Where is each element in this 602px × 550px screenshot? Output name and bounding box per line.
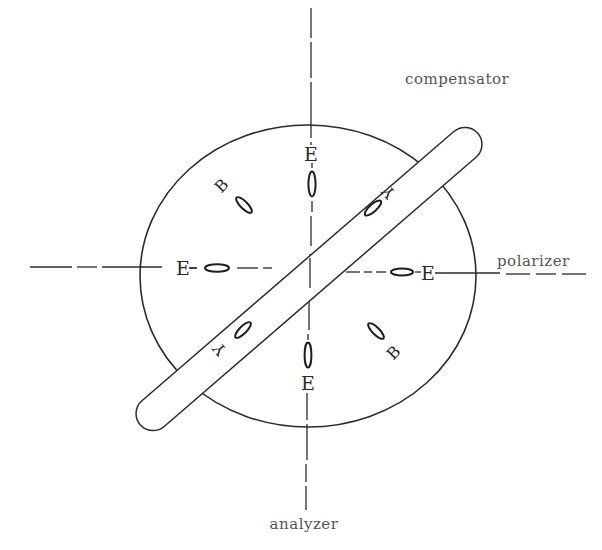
ellipse-left-e: [205, 264, 229, 272]
label-analyzer: analyzer: [270, 515, 339, 533]
label-compensator: compensator: [405, 70, 509, 88]
ellipse-bottom-e: [305, 343, 312, 368]
label-e-top: E: [304, 143, 318, 165]
ellipse-top-e: [308, 172, 315, 197]
label-b-upper-left: B: [211, 175, 233, 197]
label-b-lower-right: B: [383, 342, 405, 364]
ellipse-right-e: [391, 268, 413, 275]
label-polarizer: polarizer: [497, 252, 570, 270]
ellipse-lower-right-b: [366, 321, 386, 341]
label-e-left: E: [176, 257, 190, 279]
label-e-bottom: E: [301, 372, 315, 394]
ellipse-upper-left-b: [234, 195, 254, 215]
label-e-right: E: [421, 262, 435, 284]
diagram-canvas: E E E E B B Y Y compensator polarizer an…: [0, 0, 602, 550]
